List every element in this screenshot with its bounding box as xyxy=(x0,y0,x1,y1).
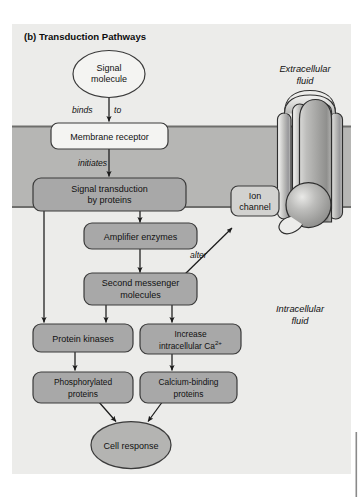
calcium-binding-proteins-label-line1: Calcium-binding xyxy=(158,377,218,387)
node-protein-kinases[interactable]: Protein kinases xyxy=(33,324,133,352)
page-side-rule xyxy=(356,432,358,497)
edge-label-binds: binds xyxy=(72,105,93,115)
cell-response-label: Cell response xyxy=(103,441,158,451)
ion-channel-label-line1: Ion xyxy=(249,191,262,201)
node-phosphorylated-proteins[interactable]: Phosphorylated proteins xyxy=(33,372,133,403)
node-signal-transduction[interactable]: Signal transduction by proteins xyxy=(33,178,186,211)
signal-molecule-label-line2: molecule xyxy=(91,74,127,84)
node-second-messenger[interactable]: Second messenger molecules xyxy=(84,273,197,305)
node-ion-channel-label[interactable]: Ion channel xyxy=(231,186,279,216)
panel-title: (b) Transduction Pathways xyxy=(24,31,146,42)
increase-calcium-label-line2: intracellular Ca2+ xyxy=(159,339,222,350)
node-signal-molecule[interactable]: Signal molecule xyxy=(73,51,145,98)
extracellular-fluid-label-line1: Extracellular xyxy=(279,64,331,74)
increase-calcium-superscript: 2+ xyxy=(215,339,222,346)
edge-label-to: to xyxy=(114,105,121,115)
diagram-canvas: Signal molecule binds to Membrane recept… xyxy=(0,0,363,497)
signal-transduction-label-line2: by proteins xyxy=(87,195,132,205)
increase-calcium-label-line1: Increase xyxy=(174,329,206,339)
node-increase-calcium[interactable]: Increase intracellular Ca2+ xyxy=(140,324,241,354)
intracellular-fluid-label-line2: fluid xyxy=(291,316,309,326)
phosphorylated-proteins-label-line1: Phosphorylated xyxy=(54,377,113,387)
transduction-pathways-figure: Signal molecule binds to Membrane recept… xyxy=(0,0,363,497)
membrane-receptor-label: Membrane receptor xyxy=(70,132,149,142)
signal-molecule-label-line1: Signal xyxy=(96,63,121,73)
calcium-binding-proteins-label-line2: proteins xyxy=(174,389,204,399)
node-amplifier-enzymes[interactable]: Amplifier enzymes xyxy=(84,223,197,249)
second-messenger-label-line1: Second messenger xyxy=(102,278,180,288)
signal-transduction-label-line1: Signal transduction xyxy=(71,184,148,194)
edge-label-alter: alter xyxy=(190,250,208,260)
node-cell-response[interactable]: Cell response xyxy=(91,422,171,469)
edge-label-initiates: initiates xyxy=(78,158,108,168)
extracellular-fluid-label-line2: fluid xyxy=(296,76,314,86)
ion-channel-protein xyxy=(278,91,343,234)
ion-channel-label-line2: channel xyxy=(239,202,271,212)
node-calcium-binding-proteins[interactable]: Calcium-binding proteins xyxy=(140,372,237,403)
node-membrane-receptor[interactable]: Membrane receptor xyxy=(51,123,168,149)
amplifier-enzymes-label: Amplifier enzymes xyxy=(104,232,178,242)
second-messenger-label-line2: molecules xyxy=(120,290,161,300)
protein-kinases-label: Protein kinases xyxy=(52,334,114,344)
phosphorylated-proteins-label-line2: proteins xyxy=(68,389,98,399)
intracellular-fluid-label-line1: Intracellular xyxy=(276,304,325,314)
increase-calcium-label-line2-text: intracellular Ca xyxy=(159,341,215,351)
